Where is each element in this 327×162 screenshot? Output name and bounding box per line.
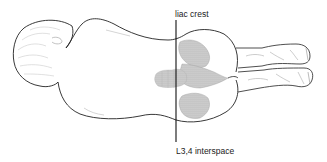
torso-outline bbox=[58, 19, 238, 122]
lateral-position-illustration bbox=[0, 0, 327, 162]
head-illustration bbox=[13, 20, 73, 86]
iliac-crest-label: liac crest bbox=[175, 10, 209, 19]
l3-l4-interspace-label: L3,4 interspace bbox=[176, 147, 234, 156]
legs-illustration bbox=[236, 44, 313, 92]
pelvis-spine-shading bbox=[155, 40, 228, 119]
